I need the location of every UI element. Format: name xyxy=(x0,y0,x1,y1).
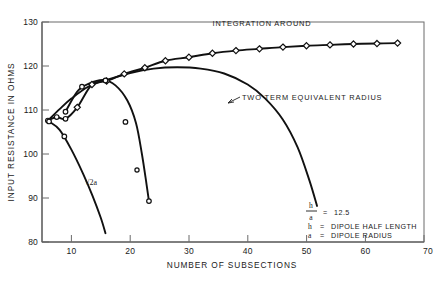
data-point-marker-diamond xyxy=(233,48,239,54)
annotation-integration-around: INTEGRATION AROUND xyxy=(213,19,312,28)
x-tick-label-40: 40 xyxy=(243,246,253,256)
legend-row-1-equals: = xyxy=(320,231,325,240)
data-point-marker-circle xyxy=(63,109,68,114)
annotation-sqrt2a: √2a xyxy=(85,178,97,187)
data-point-marker-diamond xyxy=(162,58,168,64)
x-axis-title: NUMBER OF SUBSECTIONS xyxy=(167,260,297,270)
legend-ratio-denominator: a xyxy=(309,213,313,222)
y-axis-tick-labels: 130 120 110 100 90 80 xyxy=(23,17,38,247)
data-point-marker-circle xyxy=(63,117,68,122)
series-group xyxy=(48,43,398,233)
data-point-marker-circle xyxy=(62,134,67,139)
data-point-marker-circle xyxy=(123,120,128,125)
data-point-marker-diamond xyxy=(280,44,286,50)
legend-ratio-value: 12.5 xyxy=(334,208,350,217)
data-point-marker-diamond xyxy=(209,50,215,56)
curve-mid-descending xyxy=(66,80,149,201)
legend-row-0-equals: = xyxy=(320,222,325,231)
legend-row-1-symbol: a xyxy=(308,231,312,240)
data-point-marker-circle xyxy=(47,119,52,124)
series-markers xyxy=(46,40,401,203)
legend-row-0-text: DIPOLE HALF LENGTH xyxy=(331,222,417,231)
curve-sqrt2a xyxy=(49,121,105,233)
x-tick-label-10: 10 xyxy=(66,246,76,256)
data-point-marker-diamond xyxy=(374,40,380,46)
x-tick-label-30: 30 xyxy=(184,246,194,256)
data-point-marker-diamond xyxy=(350,41,356,47)
data-point-marker-diamond xyxy=(186,54,192,60)
y-tick-label-100: 100 xyxy=(23,149,38,159)
x-tick-label-50: 50 xyxy=(302,246,312,256)
legend-block: h a = 12.5 h = DIPOLE HALF LENGTH a = DI… xyxy=(306,201,417,240)
data-point-marker-diamond xyxy=(303,43,309,49)
stray-data-point xyxy=(135,168,139,172)
data-point-marker-circle xyxy=(80,84,85,89)
y-axis-title: INPUT RESISTANCE IN OHMS xyxy=(6,63,16,202)
y-tick-label-110: 110 xyxy=(24,105,38,115)
legend-ratio-numerator: h xyxy=(309,201,313,210)
y-axis-ticks xyxy=(42,22,49,242)
annotation-two-term-equivalent-radius: TWO TERM EQUIVALENT RADIUS xyxy=(242,93,382,102)
y-tick-label-90: 90 xyxy=(28,193,38,203)
plot-frame xyxy=(42,22,424,242)
y-tick-label-80: 80 xyxy=(28,237,38,247)
x-axis-tick-labels: 10 20 30 40 50 60 70 xyxy=(66,246,433,256)
annotation-sqrt2a-group: √2a xyxy=(85,178,97,187)
legend-row-0-symbol: h xyxy=(308,222,312,231)
data-point-marker-diamond xyxy=(256,46,262,52)
figure-caption xyxy=(8,284,428,291)
figure-container: 130 120 110 100 90 80 10 20 30 40 50 60 … xyxy=(0,0,439,291)
y-tick-label-130: 130 xyxy=(23,17,38,27)
y-tick-label-120: 120 xyxy=(23,61,38,71)
x-tick-label-20: 20 xyxy=(125,246,135,256)
x-tick-label-70: 70 xyxy=(423,246,433,256)
legend-ratio-equals: = xyxy=(323,208,328,217)
annotation-two-term-group: TWO TERM EQUIVALENT RADIUS xyxy=(228,93,382,103)
data-point-marker-diamond xyxy=(394,40,400,46)
x-tick-label-60: 60 xyxy=(360,246,370,256)
data-point-marker-circle xyxy=(147,199,152,204)
data-point-marker-diamond xyxy=(327,42,333,48)
data-point-marker-circle xyxy=(103,78,108,83)
curve-integration-around xyxy=(48,43,398,120)
legend-row-1-text: DIPOLE RADIUS xyxy=(331,231,392,240)
data-point-marker-circle xyxy=(54,115,59,120)
input-resistance-chart: 130 120 110 100 90 80 10 20 30 40 50 60 … xyxy=(0,0,439,291)
